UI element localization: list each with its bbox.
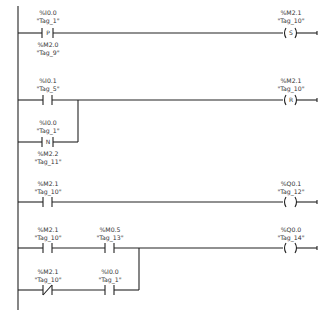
contact-address: %M2.1 [23,180,73,188]
memory-address: %M2.0 [23,41,73,49]
contact-address: %M2.1 [23,226,73,234]
coil-tag: "Tag_14" [266,234,316,242]
contact-tag: "Tag_1" [23,17,73,25]
contact-tag: "Tag_13" [85,234,135,242]
normally-closed-contact[interactable] [43,285,52,295]
contact-tag: "Tag_10" [23,234,73,242]
rung-3 [18,197,317,207]
memory-tag: "Tag_9" [23,49,73,57]
contact-tag: "Tag_10" [23,276,73,284]
coil-symbol: S [266,29,316,37]
contact-address: %I0.0 [23,119,73,127]
contact-tag: "Tag_1" [85,276,135,284]
coil-address: %M2.1 [266,9,316,17]
contact-address: %I0.0 [85,268,135,276]
edge-symbol: N [23,138,73,146]
coil-symbol: R [266,96,316,104]
normally-open-contact[interactable] [43,95,52,105]
normally-open-contact[interactable] [43,197,52,207]
coil-address: %M2.1 [266,77,316,85]
contact-address: %M0.5 [85,226,135,234]
coil-tag: "Tag_12" [266,188,316,196]
contact-address: %I0.0 [23,9,73,17]
output-coil[interactable] [285,197,297,207]
edge-symbol: P [23,29,73,37]
coil-address: %Q0.0 [266,226,316,234]
memory-tag: "Tag_11" [23,158,73,166]
memory-address: %M2.2 [23,150,73,158]
contact-tag: "Tag_1" [23,127,73,135]
contact-tag: "Tag_5" [23,85,73,93]
normally-open-contact[interactable] [105,243,114,253]
contact-tag: "Tag_10" [23,188,73,196]
contact-address: %I0.1 [23,77,73,85]
normally-open-contact[interactable] [105,285,114,295]
coil-tag: "Tag_10" [266,17,316,25]
contact-address: %M2.1 [23,268,73,276]
normally-open-contact[interactable] [43,243,52,253]
coil-tag: "Tag_10" [266,85,316,93]
output-coil[interactable] [285,243,297,253]
coil-address: %Q0.1 [266,180,316,188]
